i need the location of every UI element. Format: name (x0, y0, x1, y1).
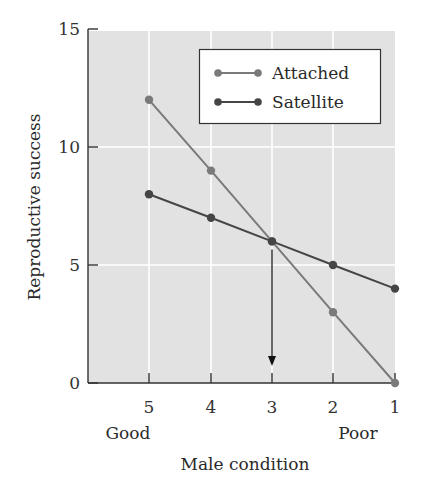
data-point-satellite (268, 237, 276, 245)
y-tick-label: 10 (58, 137, 80, 157)
x-annotation-good: Good (106, 423, 151, 443)
legend-box (200, 50, 381, 124)
data-point-attached (145, 96, 153, 104)
data-point-satellite (391, 284, 399, 292)
data-point-satellite (329, 261, 337, 269)
x-tick-label: 1 (390, 397, 401, 417)
y-tick-label: 5 (69, 255, 80, 275)
data-point-attached (391, 379, 399, 387)
legend-label-attached: Attached (271, 63, 349, 83)
data-point-satellite (207, 214, 215, 222)
x-tick-label: 4 (206, 397, 217, 417)
legend-marker-icon (214, 98, 222, 106)
x-axis-title: Male condition (181, 454, 310, 474)
legend-label-satellite: Satellite (272, 92, 344, 112)
y-tick-label: 15 (58, 19, 80, 39)
x-tick-label: 3 (267, 397, 278, 417)
y-tick-label: 0 (69, 373, 80, 393)
legend-marker-icon (254, 98, 262, 106)
x-tick-label: 2 (328, 397, 339, 417)
legend-marker-icon (214, 69, 222, 77)
legend: AttachedSatellite (200, 50, 381, 124)
data-point-attached (207, 166, 215, 174)
chart: 05101554321 AttachedSatellite Reproducti… (0, 0, 421, 494)
x-annotation-poor: Poor (338, 423, 378, 443)
y-axis-title: Reproductive success (24, 113, 44, 300)
legend-marker-icon (254, 69, 262, 77)
data-point-attached (329, 308, 337, 316)
data-point-satellite (145, 190, 153, 198)
x-tick-label: 5 (144, 397, 155, 417)
